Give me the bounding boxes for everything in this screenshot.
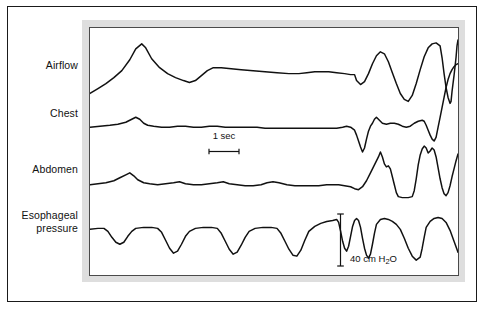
pressure-calibration: 40 cm H2O	[336, 213, 432, 271]
channel-label-airflow: Airflow	[8, 59, 78, 72]
time-calibration-bar-icon	[208, 148, 240, 155]
pressure-calibration-label-main: 40 cm H	[350, 253, 385, 264]
channel-label-abdomen: Abdomen	[8, 163, 78, 176]
pressure-calibration-bar-icon	[336, 213, 345, 267]
pressure-calibration-label-tail: O	[390, 253, 397, 264]
trace-chest	[90, 64, 458, 152]
trace-airflow	[90, 40, 458, 103]
channel-label-chest: Chest	[8, 107, 78, 120]
time-calibration-label: 1 sec	[194, 130, 254, 141]
channel-label-esophageal-pressure: Esophageal pressure	[2, 209, 78, 235]
time-calibration: 1 sec	[194, 130, 254, 162]
trace-abdomen	[90, 146, 458, 198]
polysomnography-figure: Airflow Chest Abdomen Esophageal pressur…	[0, 0, 486, 311]
pressure-calibration-label: 40 cm H2O	[350, 253, 397, 266]
